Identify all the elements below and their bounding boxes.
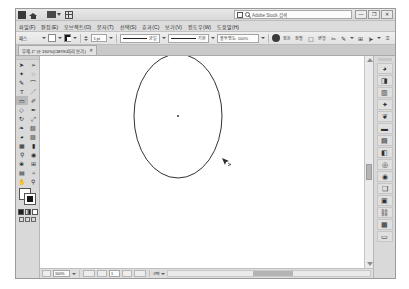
tool-rotate[interactable]: ↻ xyxy=(16,114,28,123)
full-screen-menu-mode-button[interactable] xyxy=(25,217,30,222)
tool-type[interactable]: T xyxy=(16,87,28,96)
home-icon[interactable] xyxy=(29,11,37,19)
tool-selection[interactable]: ➤ xyxy=(16,60,28,69)
status-chevron-icon[interactable] xyxy=(161,273,165,275)
scroll-up-icon[interactable] xyxy=(367,58,373,62)
brush-chevron-icon[interactable] xyxy=(211,37,215,39)
tool-curvature[interactable]: ⌒ xyxy=(28,78,40,87)
panel-properties[interactable]: ▭ xyxy=(377,231,393,242)
tool-pen[interactable]: ✎ xyxy=(16,78,28,87)
overflow-icon[interactable]: ≡ xyxy=(383,34,392,43)
tool-direct-selection[interactable]: ➢ xyxy=(28,60,40,69)
tool-column-graph[interactable]: ⊞ xyxy=(28,159,40,168)
grid-icon[interactable]: ⊞ xyxy=(356,34,365,43)
tool-paintbrush[interactable]: ✐ xyxy=(28,96,40,105)
stroke-weight-stepper[interactable] xyxy=(84,36,88,41)
horizontal-scrollbar[interactable] xyxy=(167,270,371,277)
close-button[interactable]: ✕ xyxy=(381,10,393,19)
tool-lasso[interactable]: ◌ xyxy=(28,69,40,78)
restore-button[interactable]: ❐ xyxy=(368,10,380,19)
menu-edit[interactable]: 편집(E) xyxy=(41,23,58,30)
tool-scale[interactable]: ⤢ xyxy=(28,114,40,123)
tool-width[interactable]: ❧ xyxy=(16,123,28,132)
tool-shaper[interactable]: ◇ xyxy=(16,105,28,114)
panel-brushes[interactable]: ✦ xyxy=(377,99,393,110)
chevron-down-icon[interactable] xyxy=(57,13,61,16)
stroke-chevron-icon[interactable] xyxy=(73,37,77,39)
menu-object[interactable]: 오브젝트(O) xyxy=(64,23,91,30)
tool-hand[interactable]: ✋ xyxy=(16,177,28,186)
menu-effect[interactable]: 효과(C) xyxy=(142,23,159,30)
full-screen-mode-button[interactable] xyxy=(31,217,36,222)
pen-edit-icon[interactable]: ✎ xyxy=(340,34,349,43)
menu-help[interactable]: 도움말(H) xyxy=(217,23,239,30)
fill-swatch[interactable] xyxy=(48,34,56,42)
none-mode-button[interactable] xyxy=(32,209,38,215)
opacity-control[interactable]: 불투명도: 100% xyxy=(217,34,259,43)
tool-artboard[interactable]: ▤ xyxy=(16,168,28,177)
gradient-mode-button[interactable] xyxy=(25,209,31,215)
vertical-scroll-thumb[interactable] xyxy=(366,164,372,180)
panel-links[interactable]: ⛓ xyxy=(377,207,393,218)
tool-free-transform[interactable]: ▧ xyxy=(28,123,40,132)
menu-view[interactable]: 보기(V) xyxy=(165,23,182,30)
artboard-nav-first[interactable] xyxy=(83,270,95,277)
ellipse-path[interactable] xyxy=(40,56,364,268)
panel-color[interactable]: ◕ xyxy=(377,63,393,74)
normal-screen-mode-button[interactable] xyxy=(19,217,24,222)
vertical-scrollbar[interactable] xyxy=(364,56,373,268)
stroke-swatch[interactable] xyxy=(64,34,72,42)
menu-file[interactable]: 파일(F) xyxy=(19,23,35,30)
menu-select[interactable]: 선택(S) xyxy=(120,23,137,30)
tool-rectangle[interactable]: ▭ xyxy=(16,96,28,105)
panel-libraries[interactable]: ▦ xyxy=(377,219,393,230)
transform-icon[interactable]: ▢ xyxy=(306,34,315,43)
scissors-icon[interactable]: ✂ xyxy=(329,34,338,43)
panel-swatches[interactable]: ▥ xyxy=(377,87,393,98)
tool-zoom[interactable]: ⚲ xyxy=(28,177,40,186)
artboard-canvas[interactable] xyxy=(40,56,364,268)
scroll-down-icon[interactable] xyxy=(367,262,373,266)
panel-graphic-styles[interactable]: ◉ xyxy=(377,171,393,182)
tool-shape-builder[interactable]: ◕ xyxy=(16,132,28,141)
pen-edit-chevron-icon[interactable] xyxy=(350,37,354,39)
stock-search-box[interactable]: Adobe Stock 검색 xyxy=(234,10,352,19)
zoom-level-field[interactable]: 100% xyxy=(53,270,70,277)
margin-chevron-icon[interactable] xyxy=(377,37,381,39)
arrange-documents-icon[interactable] xyxy=(47,11,56,18)
artboard-nav-next[interactable] xyxy=(122,270,132,277)
tool-pencil[interactable]: ✒ xyxy=(28,105,40,114)
panel-layers[interactable]: ❑ xyxy=(377,183,393,194)
stroke-weight-field[interactable]: 1 pt xyxy=(91,34,106,42)
chevron-down-icon[interactable] xyxy=(42,37,46,39)
menu-type[interactable]: 문자(T) xyxy=(97,23,113,30)
margin-icon[interactable]: |▸ xyxy=(367,34,376,43)
panel-symbols[interactable]: ❦ xyxy=(377,111,393,122)
tool-perspective-grid[interactable]: ▨ xyxy=(28,132,40,141)
arrange-button[interactable]: 정돈 xyxy=(282,35,292,41)
zoom-chevron-icon[interactable] xyxy=(72,273,76,275)
artboard-nav-last[interactable] xyxy=(134,270,146,277)
panel-color-guide[interactable]: ◨ xyxy=(377,75,393,86)
opacity-chevron-icon[interactable] xyxy=(261,37,265,39)
tool-magic-wand[interactable]: ✦ xyxy=(16,69,28,78)
align-button[interactable]: 정렬 xyxy=(294,35,304,41)
tool-line-segment[interactable]: ／ xyxy=(28,87,40,96)
dock-grip[interactable] xyxy=(378,58,392,61)
panel-appearance[interactable]: ◎ xyxy=(377,159,393,170)
fill-chevron-icon[interactable] xyxy=(58,37,62,39)
tool-eyedropper[interactable]: ⚲ xyxy=(16,150,28,159)
tool-slice[interactable]: ⌗ xyxy=(28,168,40,177)
panel-transparency[interactable]: ◧ xyxy=(377,147,393,158)
opacity-disk-icon[interactable] xyxy=(272,34,281,43)
brush-picker[interactable]: 기본 xyxy=(168,34,208,43)
tool-symbol-sprayer[interactable]: ❀ xyxy=(16,159,28,168)
search-input[interactable]: Adobe Stock 검색 xyxy=(252,12,287,18)
stroke-profile-chevron-icon[interactable] xyxy=(162,37,166,39)
toolbox-stroke-swatch[interactable] xyxy=(24,193,36,205)
tool-gradient[interactable]: ▮ xyxy=(28,141,40,150)
close-icon[interactable]: ✕ xyxy=(89,48,93,53)
minimize-button[interactable]: — xyxy=(355,10,367,19)
color-mode-button[interactable] xyxy=(18,209,24,215)
stroke-profile-picker[interactable]: 균일 xyxy=(120,34,160,43)
